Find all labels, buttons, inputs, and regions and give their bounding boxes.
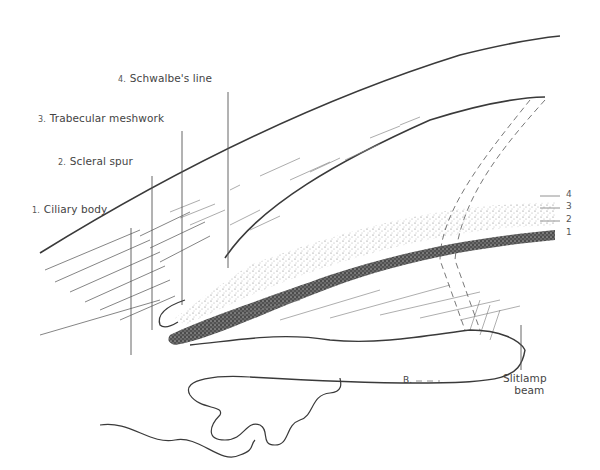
- iris-tip: [250, 350, 525, 383]
- lens-edge-curve: [100, 424, 255, 457]
- iris-folds: [188, 376, 340, 445]
- label-b-marker: B.: [403, 375, 412, 385]
- label-schwalbes-line: 4.Schwalbe's line: [118, 72, 212, 84]
- cornea-hatching: [170, 117, 420, 230]
- label-ciliary-body: 1.Ciliary body: [32, 203, 107, 215]
- gonioscopy-diagram: 4.Schwalbe's line 3.Trabecular meshwork …: [0, 0, 600, 470]
- marker-2: 2: [566, 214, 572, 224]
- marker-1: 1: [566, 227, 572, 237]
- label-scleral-spur: 2.Scleral spur: [58, 155, 133, 167]
- angle-drawing: [0, 0, 600, 470]
- scleral-spur-outline: [159, 300, 185, 327]
- label-trabecular-meshwork: 3.Trabecular meshwork: [38, 112, 164, 124]
- marker-4: 4: [566, 189, 572, 199]
- trabecular-band: [175, 202, 555, 325]
- iris-outline: [190, 330, 525, 350]
- label-slitlamp-beam: Slitlamp beam: [503, 372, 547, 396]
- marker-3: 3: [566, 201, 572, 211]
